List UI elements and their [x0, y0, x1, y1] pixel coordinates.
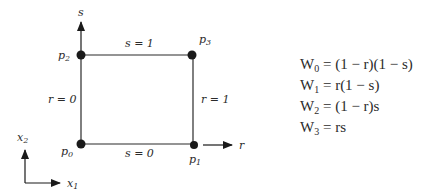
- node-p2-label: p2: [58, 49, 70, 63]
- edge-bottom-label: s = 0: [125, 147, 154, 160]
- node-p3-dot-icon: [188, 51, 197, 60]
- node-p0-label: p0: [61, 145, 73, 159]
- edge-top-label: s = 1: [125, 37, 154, 50]
- edge-right-label: r = 1: [201, 93, 229, 106]
- s-axis-label: s: [78, 6, 84, 19]
- equation-w2: W2 = (1 − r)s: [300, 99, 379, 116]
- node-p1-label: p1: [189, 153, 201, 167]
- node-p3-label: p3: [199, 33, 211, 47]
- node-p0-dot-icon: [77, 140, 86, 149]
- node-p1-dot-icon: [190, 141, 198, 149]
- edge-left-label: r = 0: [48, 93, 76, 106]
- r-axis-label: r: [239, 139, 245, 152]
- equation-w0: W0 = (1 − r)(1 − s): [300, 57, 413, 74]
- x1-axis-label: x1: [67, 177, 78, 191]
- equation-w1: W1 = r(1 − s): [300, 78, 379, 95]
- node-p2-dot-icon: [77, 51, 86, 60]
- equation-w3: W3 = rs: [300, 120, 346, 137]
- element-square: [81, 55, 194, 144]
- x2-axis-label: x2: [17, 131, 28, 145]
